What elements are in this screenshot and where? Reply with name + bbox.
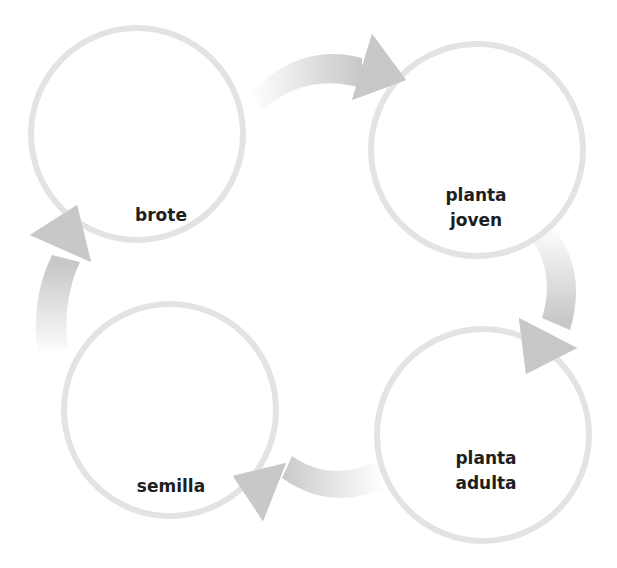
stage-label-brote: brote <box>135 203 187 228</box>
life-cycle-diagram <box>0 0 617 568</box>
stage-circle-planta-adulta <box>377 329 589 541</box>
label-line: brote <box>135 203 187 228</box>
arrow-shaft <box>282 456 385 498</box>
stage-label-semilla: semilla <box>137 474 205 499</box>
arrow-shaft <box>252 54 362 110</box>
label-line: planta <box>455 446 516 471</box>
stage-label-planta-joven: planta joven <box>445 183 506 233</box>
arrow-shaft <box>36 255 80 355</box>
stage-label-planta-adulta: planta adulta <box>455 446 516 496</box>
label-line: planta <box>445 183 506 208</box>
label-line: semilla <box>137 474 205 499</box>
label-line: adulta <box>455 471 516 496</box>
arrow-head-left-overlay <box>30 205 91 262</box>
label-line: joven <box>445 208 506 233</box>
